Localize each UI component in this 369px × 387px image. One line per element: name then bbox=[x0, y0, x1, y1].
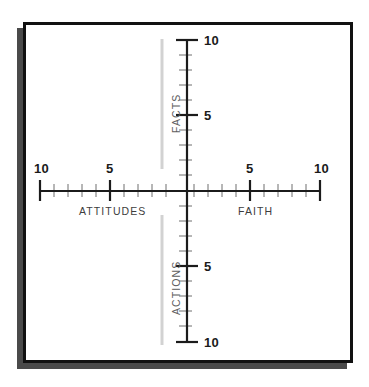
tick-label-x-positive-10: 10 bbox=[314, 162, 329, 175]
axes-graphic bbox=[26, 25, 350, 360]
tick-label-y-positive-10: 10 bbox=[204, 34, 219, 47]
axis-label-facts: FACTS bbox=[171, 94, 182, 133]
tick-label-x-negative-5: 5 bbox=[106, 162, 114, 175]
tick-label-y-negative-10: 10 bbox=[204, 336, 219, 349]
tick-label-x-negative-10: 10 bbox=[34, 162, 49, 175]
figure-panel: 10 5 5 10 10 5 5 10 FACTS ACTIONS ATTITU… bbox=[23, 22, 353, 363]
tick-label-x-positive-5: 5 bbox=[246, 162, 254, 175]
plot-area: 10 5 5 10 10 5 5 10 FACTS ACTIONS ATTITU… bbox=[26, 25, 356, 366]
axis-label-attitudes: ATTITUDES bbox=[79, 206, 146, 217]
panel-frame: 10 5 5 10 10 5 5 10 FACTS ACTIONS ATTITU… bbox=[23, 22, 353, 363]
tick-label-y-positive-5: 5 bbox=[204, 109, 212, 122]
tick-label-y-negative-5: 5 bbox=[204, 260, 212, 273]
axis-label-faith: FAITH bbox=[238, 206, 273, 217]
axis-label-actions: ACTIONS bbox=[171, 261, 182, 315]
